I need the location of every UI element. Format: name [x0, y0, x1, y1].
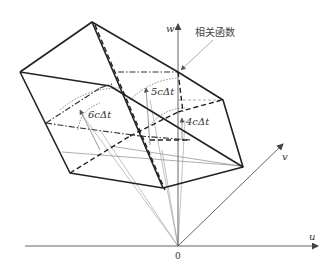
distance-4-label: 4cΔt: [186, 117, 209, 127]
diagram-svg: [0, 0, 330, 274]
v-axis-label: v: [282, 152, 288, 162]
origin-label: 0: [175, 252, 181, 261]
distance-5-label: 5cΔt: [151, 87, 174, 97]
outer-edges: [20, 22, 243, 188]
correlation-function-label: 相关函数: [195, 28, 235, 38]
correlation-leader: [181, 40, 213, 70]
u-axis-label: u: [309, 232, 315, 242]
distance-6-label: 6cΔt: [88, 110, 111, 120]
w-axis-label: w: [166, 24, 175, 34]
diagram-canvas: w v u 0 相关函数 6cΔt 5cΔt 4cΔt: [0, 0, 330, 274]
